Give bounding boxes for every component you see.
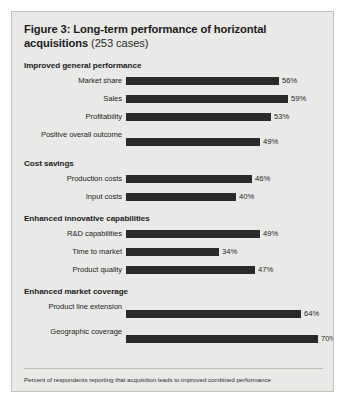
bar-fill	[126, 248, 219, 256]
bar-row: Production costs46%	[24, 174, 323, 187]
bar-fill	[126, 175, 252, 183]
bar-track: 34%	[126, 248, 323, 256]
bar-category-label: Sales	[24, 94, 122, 103]
chart-group: Improved general performanceMarket share…	[24, 61, 323, 150]
bar-row: Market share56%	[24, 76, 323, 89]
bar-value-label: 49%	[263, 137, 278, 147]
bar-fill	[126, 138, 260, 146]
bar-value-label: 56%	[282, 76, 297, 86]
bar-row: Profitability53%	[24, 112, 323, 125]
bar-track: 56%	[126, 77, 323, 85]
bar-value-label: 34%	[222, 247, 237, 257]
figure-panel: Figure 3: Long-term performance of horiz…	[11, 11, 334, 392]
bar-row: Product quality47%	[24, 265, 323, 278]
bar-value-label: 70%	[321, 334, 334, 344]
bar-value-label: 53%	[274, 112, 289, 122]
bar-fill	[126, 95, 288, 103]
bar-row: Product line extension64%	[24, 302, 323, 322]
bar-row: Input costs40%	[24, 192, 323, 205]
bar-row: R&D capabilities49%	[24, 229, 323, 242]
bar-track: 53%	[126, 113, 323, 121]
bar-fill	[126, 77, 279, 85]
bar-value-label: 46%	[255, 174, 270, 184]
chart-group: Enhanced innovative capabilitiesR&D capa…	[24, 214, 323, 278]
bar-category-label: Product line extension	[24, 302, 122, 311]
bar-category-label: Market share	[24, 76, 122, 85]
bar-fill	[126, 310, 301, 318]
bar-value-label: 49%	[263, 229, 278, 239]
chart-group: Cost savingsProduction costs46%Input cos…	[24, 159, 323, 205]
chart-group-heading: Cost savings	[24, 159, 323, 168]
chart-footnote: Percent of respondents reporting that ac…	[24, 375, 323, 384]
bar-category-label: Geographic coverage	[24, 327, 122, 336]
bar-value-label: 64%	[304, 309, 319, 319]
bar-value-label: 47%	[258, 265, 273, 275]
chart-group-heading: Enhanced innovative capabilities	[24, 214, 323, 223]
bar-track: 59%	[126, 95, 323, 103]
bar-track: 47%	[126, 266, 323, 274]
bar-fill	[126, 266, 255, 274]
bar-category-label: Input costs	[24, 192, 122, 201]
bar-row: Sales59%	[24, 94, 323, 107]
chart-group: Enhanced market coverageProduct line ext…	[24, 287, 323, 347]
bar-row: Geographic coverage70%	[24, 327, 323, 347]
figure-content: Figure 3: Long-term performance of horiz…	[24, 23, 323, 383]
bar-track: 49%	[126, 138, 323, 146]
bar-category-label: Profitability	[24, 112, 122, 121]
footer-divider	[24, 368, 323, 369]
bar-track: 49%	[126, 230, 323, 238]
bar-category-label: Time to market	[24, 247, 122, 256]
bar-row: Positive overall outcome49%	[24, 130, 323, 150]
bar-category-label: Product quality	[24, 265, 122, 274]
bar-fill	[126, 335, 318, 343]
figure-title-subtitle: (253 cases)	[91, 37, 148, 49]
bar-track: 40%	[126, 193, 323, 201]
bar-category-label: Production costs	[24, 174, 122, 183]
bar-value-label: 59%	[291, 94, 306, 104]
chart-group-heading: Enhanced market coverage	[24, 287, 323, 296]
bar-fill	[126, 230, 260, 238]
bar-category-label: Positive overall outcome	[24, 130, 122, 139]
bar-row: Time to market34%	[24, 247, 323, 260]
bar-fill	[126, 193, 236, 201]
bar-value-label: 40%	[239, 192, 254, 202]
bar-fill	[126, 113, 271, 121]
figure-title: Figure 3: Long-term performance of horiz…	[24, 23, 312, 50]
bar-track: 46%	[126, 175, 323, 183]
bar-track: 64%	[126, 310, 323, 318]
bar-track: 70%	[126, 335, 323, 343]
bar-chart: Improved general performanceMarket share…	[24, 61, 323, 347]
bar-category-label: R&D capabilities	[24, 229, 122, 238]
chart-group-heading: Improved general performance	[24, 61, 323, 70]
